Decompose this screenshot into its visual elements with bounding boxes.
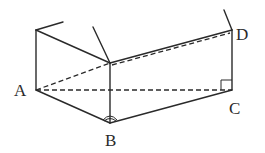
edge-top-left-extension	[36, 22, 63, 30]
dashed-top-mid-to-D	[112, 33, 230, 65]
label-C: C	[229, 99, 240, 118]
dashed-A-to-top-mid	[36, 63, 110, 90]
edge-D-extension	[224, 10, 232, 30]
edge-top-mid-extension	[93, 27, 110, 63]
edge-top-mid-to-D	[110, 30, 232, 63]
right-angle-marker-C	[221, 80, 232, 90]
label-B: B	[105, 131, 116, 150]
label-D: D	[236, 25, 248, 44]
edge-top-left-to-top-mid	[36, 30, 110, 63]
edge-B-to-C	[110, 90, 232, 123]
diagram-canvas: A B C D	[0, 0, 265, 153]
edge-A-to-B	[36, 90, 110, 123]
label-A: A	[14, 81, 27, 100]
geometry-diagram: A B C D	[0, 0, 265, 153]
